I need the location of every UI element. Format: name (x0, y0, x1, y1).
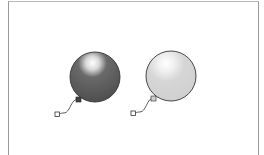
string-tag (55, 112, 60, 117)
dark-balloon (55, 52, 120, 117)
light-balloon (131, 51, 196, 116)
balloon-string (135, 98, 152, 113)
balloon-body (70, 52, 120, 102)
balloon-string (59, 99, 77, 114)
balloon-knot (151, 96, 156, 101)
balloon-body (146, 51, 196, 101)
string-tag (131, 111, 136, 116)
balloons-illustration (0, 0, 264, 155)
balloon-knot (76, 97, 81, 102)
